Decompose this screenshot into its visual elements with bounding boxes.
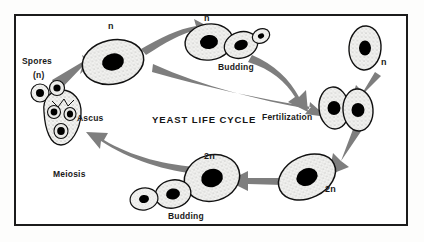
cell-budding-haploid xyxy=(183,21,272,63)
label-ascus: Ascus xyxy=(77,113,104,123)
cell-budding-diploid xyxy=(128,148,245,212)
label-budding-bottom: Budding xyxy=(168,211,204,221)
label-budding-top: Budding xyxy=(218,62,254,72)
figure-canvas: Spores (n) Ascus YEAST LIFE CYCLE Meiosi… xyxy=(0,0,424,242)
cell-diploid xyxy=(271,145,343,209)
cell-haploid-main xyxy=(78,34,148,90)
label-2n-bottom-right: 2n xyxy=(325,184,336,194)
label-2n-bottom-center: 2n xyxy=(204,151,215,161)
cell-haploid-right xyxy=(348,25,383,71)
arrow-budding-to-zygote xyxy=(248,55,308,112)
label-fertilization: Fertilization xyxy=(262,112,312,122)
cell-ascus xyxy=(44,81,81,146)
label-n-right: n xyxy=(381,57,387,67)
label-spores: Spores xyxy=(22,56,52,66)
label-n-top-left: n xyxy=(108,21,114,31)
figure-title: YEAST LIFE CYCLE xyxy=(152,114,256,125)
cell-zygote-pair xyxy=(317,86,375,132)
label-spores-ploidy: (n) xyxy=(33,70,44,80)
arrow-meiosis xyxy=(86,132,200,174)
label-meiosis: Meiosis xyxy=(53,169,86,179)
label-n-top-right: n xyxy=(204,13,210,23)
